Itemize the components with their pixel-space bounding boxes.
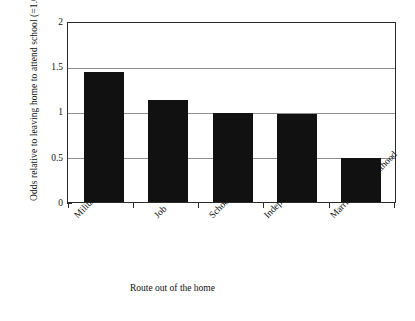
bar-military [84, 72, 124, 202]
y-tick-label-0: 0 [33, 198, 63, 208]
bar-school [213, 113, 253, 202]
x-tickmark-2 [198, 203, 199, 208]
y-tick-label-1: 1 [33, 107, 63, 117]
y-tick-label-0-5: 0.5 [33, 153, 63, 163]
x-tickmark-0 [68, 203, 69, 208]
y-tick-label-1-5: 1.5 [33, 62, 63, 72]
y-tick-label-2: 2 [33, 17, 63, 27]
bar-job [148, 100, 188, 202]
x-tickmark-4 [329, 203, 330, 208]
x-tickmark-3 [263, 203, 264, 208]
gridline-1-5 [68, 68, 395, 69]
x-tickmark-1 [133, 203, 134, 208]
x-axis-title: Route out of the home [130, 283, 215, 293]
x-tickmark-5 [394, 203, 395, 208]
plot-area [67, 22, 396, 203]
bar-chart: Odds relative to leaving home to attend … [0, 0, 415, 321]
x-axis-title-container: Route out of the home [0, 283, 415, 293]
